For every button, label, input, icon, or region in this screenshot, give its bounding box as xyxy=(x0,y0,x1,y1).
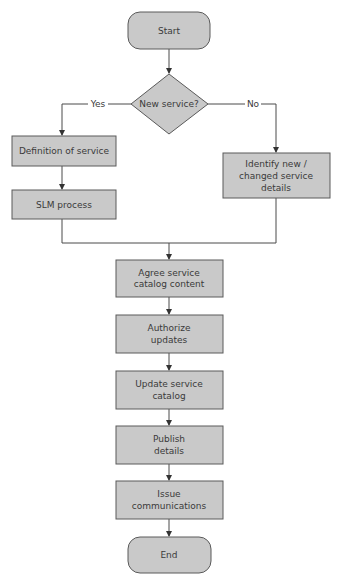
node-identify-label-line1: Identify new / xyxy=(245,159,307,169)
node-agree-label-line1: Agree service xyxy=(138,268,200,278)
branch-label-yes: Yes xyxy=(88,98,108,110)
branch-label-no: No xyxy=(245,98,261,110)
node-decision-label: New service? xyxy=(139,99,199,109)
node-end-label: End xyxy=(160,550,177,560)
node-update-label-line2: catalog xyxy=(152,391,185,401)
node-authorize-label-line1: Authorize xyxy=(147,323,191,333)
node-identify-label-line2: changed service xyxy=(239,171,313,181)
node-start-label: Start xyxy=(158,26,180,36)
node-end: End xyxy=(128,537,211,573)
node-authorize-label-line2: updates xyxy=(151,335,188,345)
node-authorize: Authorize updates xyxy=(116,315,223,353)
node-definition-label: Definition of service xyxy=(19,146,110,156)
node-decision: New service? xyxy=(131,74,208,134)
node-issue-label-line2: communications xyxy=(132,501,207,511)
node-identify: Identify new / changed service details xyxy=(223,153,330,198)
yes-label: Yes xyxy=(90,99,106,109)
node-issue-label-line1: Issue xyxy=(157,489,181,499)
node-identify-label-line3: details xyxy=(261,183,291,193)
node-publish-label-line2: details xyxy=(154,446,184,456)
node-agree-label-line2: catalog content xyxy=(134,279,205,289)
node-start: Start xyxy=(128,12,210,49)
flowchart: Yes No Start New service? Definition of … xyxy=(0,0,341,581)
edge-decision-identify xyxy=(208,104,276,152)
node-issue: Issue communications xyxy=(116,481,223,519)
no-label: No xyxy=(247,99,260,109)
node-slm-label: SLM process xyxy=(36,200,92,210)
node-slm: SLM process xyxy=(12,190,116,219)
node-update: Update service catalog xyxy=(116,371,223,409)
node-definition: Definition of service xyxy=(12,136,116,166)
node-agree: Agree service catalog content xyxy=(116,260,223,297)
node-publish: Publish details xyxy=(116,426,223,464)
node-publish-label-line1: Publish xyxy=(153,434,185,444)
node-update-label-line1: Update service xyxy=(135,379,203,389)
